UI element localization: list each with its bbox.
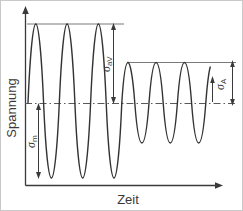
x-axis-label: Zeit bbox=[117, 192, 139, 207]
stress-time-diagram: σaV σm σA Spannung Zeit bbox=[0, 0, 243, 211]
sigma-m-subscript: m bbox=[30, 135, 39, 142]
y-axis-label: Spannung bbox=[4, 78, 19, 137]
sigma-a-subscript: A bbox=[219, 78, 228, 84]
sigma-av-subscript: aV bbox=[105, 56, 114, 66]
